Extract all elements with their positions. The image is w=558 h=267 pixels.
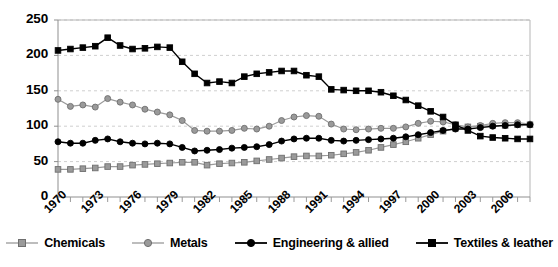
data-point-marker (130, 102, 136, 108)
data-point-marker (391, 142, 397, 148)
legend-item-chemicals[interactable]: Chemicals (5, 236, 105, 250)
data-point-marker (80, 166, 86, 172)
data-point-marker (68, 46, 74, 52)
data-point-marker (80, 140, 86, 146)
data-point-marker (204, 162, 210, 168)
data-point-marker (403, 134, 409, 140)
legend-label: Engineering & allied (273, 236, 389, 250)
data-point-marker (341, 126, 347, 132)
data-point-marker (204, 80, 210, 86)
legend-label: Chemicals (44, 236, 105, 250)
data-point-marker (490, 135, 496, 141)
data-point-marker (254, 71, 260, 77)
data-point-marker (179, 160, 185, 166)
data-point-marker (291, 154, 297, 160)
data-point-marker (341, 138, 347, 144)
data-point-marker (502, 135, 508, 141)
data-point-marker (316, 113, 322, 119)
data-point-marker (366, 137, 372, 143)
data-point-marker (117, 139, 123, 145)
y-axis-tick-label: 100 (8, 117, 48, 132)
data-point-marker (217, 79, 223, 85)
data-point-marker (341, 87, 347, 93)
data-point-marker (328, 121, 334, 127)
y-axis-tick-label: 0 (8, 188, 48, 203)
data-point-marker (216, 128, 222, 134)
data-point-marker (142, 46, 148, 52)
data-point-marker (366, 126, 372, 132)
data-point-marker (428, 109, 434, 115)
data-point-marker (291, 68, 297, 74)
data-point-marker (279, 118, 285, 124)
data-point-marker (527, 122, 533, 128)
data-point-marker (279, 68, 285, 74)
legend-item-metals[interactable]: Metals (131, 236, 208, 250)
data-point-marker (241, 125, 247, 131)
data-point-marker (80, 102, 86, 108)
data-point-marker (179, 144, 185, 150)
data-point-marker (490, 123, 496, 129)
data-point-marker (217, 161, 223, 167)
data-point-marker (130, 162, 136, 168)
data-point-marker (378, 136, 384, 142)
data-point-marker (303, 113, 309, 119)
data-point-marker (55, 167, 61, 173)
data-point-marker (266, 142, 272, 148)
data-point-marker (242, 160, 248, 166)
data-point-marker (68, 167, 74, 173)
data-point-marker (179, 59, 185, 65)
data-point-marker (353, 150, 359, 156)
data-point-marker (403, 97, 409, 103)
data-point-marker (328, 152, 334, 158)
data-point-marker (155, 44, 161, 50)
data-point-marker (304, 72, 310, 78)
data-point-marker (341, 151, 347, 157)
data-point-marker (428, 118, 434, 124)
data-point-marker (378, 89, 384, 95)
legend-item-textiles-leather[interactable]: Textiles & leather (415, 236, 553, 250)
legend-marker-icon (5, 236, 39, 250)
data-point-marker (266, 70, 272, 76)
data-point-marker (204, 147, 210, 153)
y-axis-tick-label: 50 (8, 153, 48, 168)
data-point-marker (154, 140, 160, 146)
data-point-marker (204, 128, 210, 134)
data-point-marker (453, 122, 459, 128)
data-point-marker (105, 164, 111, 170)
data-point-marker (428, 130, 434, 136)
data-point-marker (254, 144, 260, 150)
data-point-marker (403, 124, 409, 130)
data-point-marker (179, 118, 185, 124)
data-point-marker (241, 144, 247, 150)
data-point-marker (415, 103, 421, 109)
legend-marker-icon (234, 236, 268, 250)
data-point-marker (154, 109, 160, 115)
data-point-marker (192, 71, 198, 77)
plot-background (58, 20, 530, 197)
data-point-marker (117, 43, 123, 49)
data-point-marker (366, 88, 372, 94)
legend-marker-icon (131, 236, 165, 250)
data-point-marker (291, 136, 297, 142)
y-axis-tick-label: 250 (8, 11, 48, 26)
data-point-marker (415, 132, 421, 138)
y-axis-tick-label: 150 (8, 82, 48, 97)
legend-label: Metals (170, 236, 208, 250)
data-point-marker (229, 145, 235, 151)
data-point-marker (216, 147, 222, 153)
data-point-marker (316, 135, 322, 141)
data-point-marker (192, 127, 198, 133)
data-point-marker (440, 127, 446, 133)
data-point-marker (279, 138, 285, 144)
data-point-marker (266, 157, 272, 163)
data-point-marker (242, 74, 248, 80)
data-point-marker (192, 148, 198, 154)
data-point-marker (316, 74, 322, 80)
data-point-marker (515, 136, 521, 142)
data-point-marker (130, 140, 136, 146)
data-point-marker (105, 96, 111, 102)
data-point-marker (378, 145, 384, 151)
legend-item-engineering-allied[interactable]: Engineering & allied (234, 236, 389, 250)
data-point-marker (105, 136, 111, 142)
data-point-marker (353, 127, 359, 133)
